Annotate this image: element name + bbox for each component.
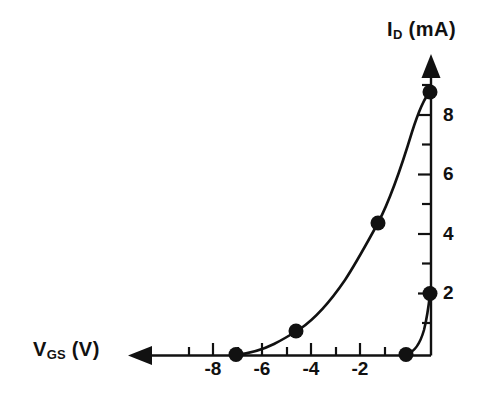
y-tick-label-8: 8 <box>443 104 454 126</box>
y-axis-title: ID (mA) <box>387 18 456 42</box>
x-axis-title-subscript: GS <box>47 347 66 362</box>
y-tick-label-6: 6 <box>443 163 454 185</box>
data-point <box>399 347 414 362</box>
x-tick-label-minus8: -8 <box>193 358 233 380</box>
data-point <box>289 324 304 339</box>
data-point <box>423 85 438 100</box>
main-curve <box>236 92 430 355</box>
y-tick-label-4: 4 <box>443 223 454 245</box>
chart-figure: ID (mA) VGS (V) -8 -6 -4 -2 8 6 4 2 <box>0 0 501 396</box>
data-point <box>423 286 438 301</box>
transfer-characteristic-plot <box>0 0 501 396</box>
data-point <box>371 216 386 231</box>
x-axis-title: VGS (V) <box>33 338 100 362</box>
x-axis-title-main: V <box>33 338 47 360</box>
x-tick-label-minus4: -4 <box>291 358 331 380</box>
x-tick-label-minus6: -6 <box>242 358 282 380</box>
y-tick-label-2: 2 <box>443 282 454 304</box>
y-axis-title-unit: (mA) <box>402 18 456 40</box>
x-axis-title-unit: (V) <box>66 338 100 360</box>
x-tick-label-minus2: -2 <box>340 358 380 380</box>
lower-branch-curve <box>407 294 430 354</box>
data-point-markers <box>229 85 438 363</box>
x-axis-ticks <box>189 343 385 356</box>
